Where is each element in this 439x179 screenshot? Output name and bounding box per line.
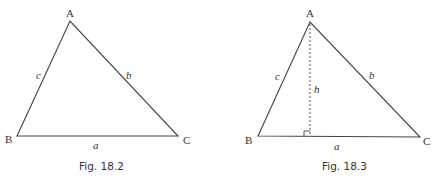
vertex-label-c: C — [183, 134, 190, 146]
side-label-c: c — [36, 69, 41, 81]
vertex-label-c: C — [423, 135, 430, 147]
side-label-b: b — [126, 69, 132, 81]
diagram-canvas: A B C c b a Fig. 18.2 A B C c b h a Fig.… — [0, 0, 439, 179]
figure-18-3: A B C c b h a Fig. 18.3 — [245, 7, 430, 172]
vertex-label-b: B — [245, 134, 252, 146]
side-label-b: b — [369, 69, 375, 81]
side-label-a: a — [93, 139, 99, 151]
vertex-label-b: B — [5, 133, 12, 145]
figure-caption: Fig. 18.2 — [79, 160, 124, 172]
figure-caption: Fig. 18.3 — [322, 160, 367, 172]
side-label-c: c — [275, 70, 280, 82]
altitude-label-h: h — [314, 83, 320, 95]
side-label-a: a — [334, 140, 340, 152]
vertex-label-a: A — [306, 7, 314, 19]
triangle-abc — [17, 21, 178, 136]
vertex-label-a: A — [66, 7, 74, 19]
figure-18-2: A B C c b a Fig. 18.2 — [5, 7, 190, 172]
right-angle-icon — [304, 131, 310, 136]
triangle-abc — [258, 22, 420, 137]
